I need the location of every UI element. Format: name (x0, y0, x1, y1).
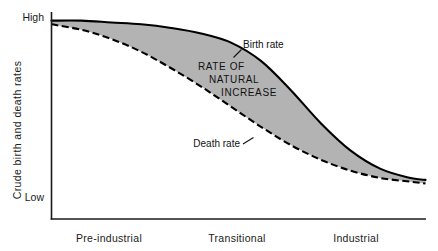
death-rate-leader-line (243, 138, 254, 145)
x-category-industrial: Industrial (333, 232, 379, 244)
x-category-transitional: Transitional (208, 232, 265, 244)
birth-rate-label: Birth rate (243, 39, 284, 50)
y-tick-high: High (22, 11, 44, 23)
rate-of-natural-increase-band (52, 21, 426, 184)
chart-canvas: High Low Crude birth and death rates Pre… (0, 0, 438, 251)
rni-label-line-1: RATE OF (198, 61, 245, 72)
death-rate-label: Death rate (193, 138, 240, 149)
rni-label-line-3: INCREASE (221, 87, 277, 98)
demographic-transition-chart: High Low Crude birth and death rates Pre… (0, 0, 438, 251)
y-tick-low: Low (25, 191, 45, 203)
rni-label-line-2: NATURAL (209, 74, 259, 85)
y-axis-label: Crude birth and death rates (11, 61, 23, 200)
x-category-pre-industrial: Pre-industrial (76, 232, 142, 244)
